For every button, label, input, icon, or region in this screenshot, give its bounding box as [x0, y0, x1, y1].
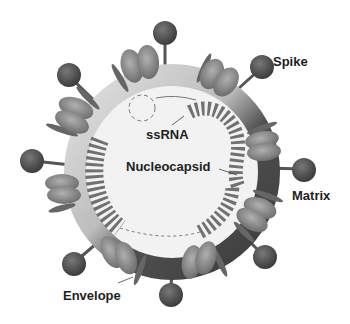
- label-nucleocapsid: Nucleocapsid: [126, 159, 211, 174]
- virus-diagram: Spike Matrix ssRNA Nucleocapsid Envelope: [0, 0, 350, 324]
- label-ssrna: ssRNA: [146, 127, 189, 142]
- spike-head: [253, 245, 277, 269]
- spike-head: [62, 252, 86, 276]
- spike-head: [250, 55, 274, 79]
- spike-head: [159, 283, 183, 307]
- label-spike: Spike: [273, 54, 308, 69]
- label-envelope: Envelope: [63, 288, 121, 303]
- spike-head: [292, 158, 316, 182]
- spike-head: [20, 149, 44, 173]
- label-matrix: Matrix: [292, 188, 331, 203]
- spike-head: [57, 63, 81, 87]
- spike-head: [153, 21, 177, 45]
